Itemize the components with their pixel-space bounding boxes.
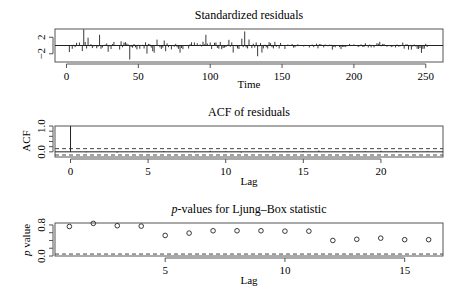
y-tick-label: 2 xyxy=(35,35,47,41)
ljung-box-axes: 510150.00.8 xyxy=(35,218,411,276)
diagnostics-figure: Standardized residuals 050100150200250−2… xyxy=(0,0,468,302)
residuals-axes: 050100150200250−22 xyxy=(35,35,435,83)
ljung-box-y-label-rest: value xyxy=(20,224,32,251)
x-tick-label: 15 xyxy=(298,165,310,177)
acf-x-label: Lag xyxy=(240,175,258,187)
x-tick-label: 5 xyxy=(162,264,168,276)
ljung-box-title: p-values for Ljung–Box statistic xyxy=(171,202,327,216)
y-tick-label: −2 xyxy=(35,48,47,60)
p-value-point xyxy=(354,237,359,242)
p-value-point xyxy=(307,229,312,234)
x-tick-label: 50 xyxy=(133,70,145,82)
ljung-box-plot-frame xyxy=(55,223,443,256)
residuals-bars xyxy=(55,29,443,59)
x-tick-label: 100 xyxy=(202,70,219,82)
ljung-box-title-p: p xyxy=(171,202,178,216)
ljung-box-panel: p-values for Ljung–Box statistic 510150.… xyxy=(20,202,443,286)
p-value-point xyxy=(283,229,288,234)
p-value-point xyxy=(67,224,72,229)
acf-panel: ACF of residuals 051015200.01.0 Lag ACF xyxy=(20,105,443,187)
p-value-point xyxy=(139,224,144,229)
x-tick-label: 15 xyxy=(399,264,411,276)
p-value-point xyxy=(115,223,120,228)
p-value-point xyxy=(426,237,431,242)
p-value-point xyxy=(259,228,264,233)
p-value-point xyxy=(402,237,407,242)
y-tick-label: 0.8 xyxy=(35,218,47,232)
x-tick-label: 150 xyxy=(274,70,291,82)
p-value-point xyxy=(187,231,192,236)
ljung-box-title-rest: -values for Ljung–Box statistic xyxy=(178,202,327,216)
x-tick-label: 20 xyxy=(375,165,387,177)
p-value-point xyxy=(378,236,383,241)
ljung-box-y-label: p value xyxy=(20,224,32,257)
residuals-panel: Standardized residuals 050100150200250−2… xyxy=(35,8,443,90)
y-tick-label: 0.0 xyxy=(35,249,47,263)
ljung-box-x-label: Lag xyxy=(240,274,258,286)
residuals-x-label: Time xyxy=(238,78,261,90)
y-tick-label: 1.0 xyxy=(35,119,47,133)
y-tick-label: 0.0 xyxy=(35,144,47,158)
x-tick-label: 0 xyxy=(64,70,70,82)
x-tick-label: 10 xyxy=(220,165,232,177)
x-tick-label: 200 xyxy=(346,70,363,82)
p-value-point xyxy=(163,233,168,238)
acf-y-label: ACF xyxy=(20,130,32,151)
x-tick-label: 10 xyxy=(279,264,291,276)
acf-bars xyxy=(55,126,443,155)
x-tick-label: 250 xyxy=(418,70,435,82)
residuals-title: Standardized residuals xyxy=(195,8,304,22)
x-tick-label: 5 xyxy=(145,165,151,177)
acf-plot-frame xyxy=(55,126,443,157)
p-value-point xyxy=(211,228,216,233)
p-value-point xyxy=(331,238,336,243)
p-value-point xyxy=(235,228,240,233)
acf-title: ACF of residuals xyxy=(208,105,290,119)
ljung-box-points xyxy=(55,221,443,254)
x-tick-label: 0 xyxy=(68,165,74,177)
acf-axes: 051015200.01.0 xyxy=(35,119,387,177)
